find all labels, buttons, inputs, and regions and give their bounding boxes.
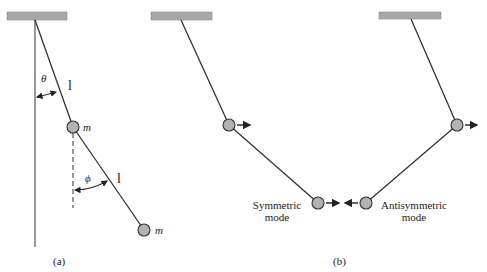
antisymmetric-mode-label-line2: mode — [402, 211, 427, 223]
lower-mass — [312, 197, 324, 209]
upper-mass — [451, 119, 463, 131]
panel-b-caption: (b) — [333, 255, 346, 268]
lower-rod — [229, 125, 318, 203]
lower-rod — [73, 127, 144, 230]
phi-label: ϕ — [85, 172, 91, 184]
upper-mass — [67, 121, 79, 133]
upper-mass-label: m — [83, 121, 91, 133]
lower-rod-length-label: l — [117, 171, 121, 186]
theta-angle-arc — [37, 92, 56, 97]
double-pendulum-figure: θ l ϕ l m m (a) Symmetric mode — [0, 0, 487, 272]
theta-label: θ — [41, 72, 47, 84]
panel-a-caption: (a) — [53, 255, 66, 268]
lower-mass — [138, 224, 150, 236]
ceiling-support — [7, 12, 67, 20]
lower-rod — [366, 125, 457, 203]
lower-mass-label: m — [155, 224, 163, 236]
panel-a: θ l ϕ l m m (a) — [7, 12, 163, 268]
symmetric-mode-label: Symmetric — [253, 199, 301, 211]
antisymmetric-mode-pendulum: Antisymmetric mode — [345, 12, 477, 223]
lower-mass — [360, 197, 372, 209]
ceiling-support — [151, 12, 212, 20]
upper-rod — [181, 20, 229, 125]
symmetric-mode-pendulum: Symmetric mode — [151, 12, 339, 223]
ceiling-support — [379, 12, 441, 19]
phi-angle-arc — [75, 181, 107, 190]
upper-rod-length-label: l — [68, 78, 72, 93]
antisymmetric-mode-label: Antisymmetric — [381, 199, 447, 211]
symmetric-mode-label-line2: mode — [265, 211, 290, 223]
panel-b: Symmetric mode Antisymmetric mode (b) — [151, 12, 477, 268]
upper-rod — [411, 19, 457, 125]
upper-mass — [223, 119, 235, 131]
